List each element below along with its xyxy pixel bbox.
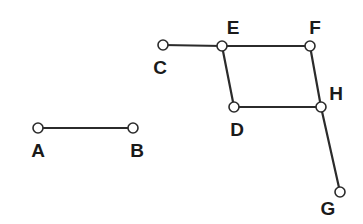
graph-edge-FH [310,46,321,107]
node-label-D: D [230,120,244,139]
node-label-G: G [321,199,336,218]
node-label-F: F [309,18,321,37]
graph-edge-HG [321,107,340,192]
graph-node-A [33,123,43,133]
node-label-B: B [130,141,144,160]
node-label-A: A [31,141,45,160]
nodes-group [33,40,345,197]
diagram-canvas: ABCDEFGH [0,0,363,224]
node-label-E: E [227,18,240,37]
graph-edge-CE [163,45,222,46]
node-label-H: H [329,84,343,103]
graph-node-B [128,123,138,133]
graph-node-H [316,102,326,112]
graph-node-F [305,41,315,51]
node-label-C: C [153,58,167,77]
graph-node-E [217,41,227,51]
graph-node-D [229,102,239,112]
graph-node-C [158,40,168,50]
graph-node-G [335,187,345,197]
graph-edge-ED [222,46,234,107]
edges-group [38,45,340,192]
